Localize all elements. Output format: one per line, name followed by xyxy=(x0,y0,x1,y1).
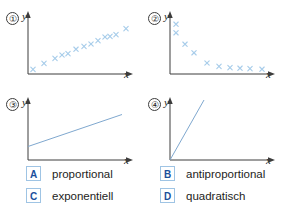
worksheet-figure: ① y x xyxy=(0,0,284,211)
panel-2-plot xyxy=(142,6,284,94)
panel-3-curve xyxy=(28,115,122,147)
legend-label-d: quadratisch xyxy=(186,190,245,202)
legend-label-a: proportional xyxy=(52,168,113,180)
panel-1-plot xyxy=(0,6,142,94)
legend-key-a: A xyxy=(26,166,41,181)
legend-item-d[interactable]: D quadratisch xyxy=(160,188,245,203)
legend-item-a[interactable]: A proportional xyxy=(26,166,113,181)
panel-1-markers xyxy=(31,26,128,71)
panel-4-axes xyxy=(167,97,275,163)
legend-key-b: B xyxy=(160,166,175,181)
answer-key-legend: A proportional B antiproportional C expo… xyxy=(0,166,284,211)
legend-label-b: antiproportional xyxy=(186,168,265,180)
panel-1-axes xyxy=(25,11,133,77)
panel-3-axes xyxy=(25,97,133,163)
legend-key-c: C xyxy=(26,188,41,203)
panel-2-axes xyxy=(167,11,275,77)
legend-label-c: exponentiell xyxy=(52,190,113,202)
panel-4-curve xyxy=(170,100,204,160)
panel-2-markers xyxy=(174,22,264,71)
legend-item-c[interactable]: C exponentiell xyxy=(26,188,113,203)
chart-panel-1: ① y x xyxy=(0,6,142,94)
legend-key-d: D xyxy=(160,188,175,203)
legend-item-b[interactable]: B antiproportional xyxy=(160,166,265,181)
chart-panel-2: ② y x xyxy=(142,6,284,94)
